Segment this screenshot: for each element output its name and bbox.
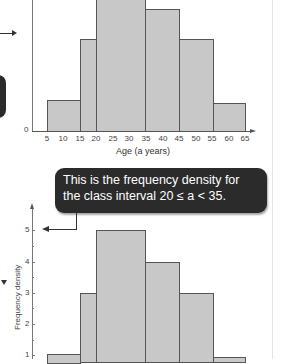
callout-line-2: the class interval 20 ≤ a < 35. bbox=[63, 188, 259, 204]
zero-label: 0 bbox=[24, 125, 28, 134]
arrowhead-icon bbox=[1, 280, 7, 285]
arrowhead-icon bbox=[12, 30, 17, 36]
x-tick: 50 bbox=[189, 134, 203, 143]
y-tick bbox=[32, 230, 35, 231]
x-tick: 5 bbox=[40, 134, 54, 143]
x-tick: 10 bbox=[56, 134, 70, 143]
y-tick-label: 3 bbox=[25, 288, 29, 297]
y-tick bbox=[32, 324, 35, 325]
x-tick: 40 bbox=[156, 134, 170, 143]
annotation-callout: This is the frequency density for the cl… bbox=[55, 168, 267, 213]
x-tick: 20 bbox=[89, 134, 103, 143]
x-tick: 65 bbox=[238, 134, 252, 143]
bar-20-35 bbox=[96, 230, 146, 363]
bar-55-65 bbox=[213, 103, 246, 132]
minor-tick bbox=[32, 246, 34, 247]
y-axis bbox=[32, 0, 33, 132]
x-tick: 25 bbox=[106, 134, 120, 143]
bar-45-55 bbox=[179, 293, 214, 363]
bar-35-45 bbox=[145, 9, 180, 132]
bar-5-15 bbox=[47, 354, 81, 364]
y-tick-label: 5 bbox=[25, 225, 29, 234]
leader-line-vertical bbox=[76, 213, 77, 230]
y-tick bbox=[32, 355, 35, 356]
minor-tick bbox=[32, 308, 34, 309]
page-divider bbox=[272, 0, 273, 359]
x-axis-title: Age (a years) bbox=[116, 146, 170, 156]
callout-line-1: This is the frequency density for bbox=[63, 172, 259, 188]
y-axis-title: Frequency density bbox=[13, 265, 22, 330]
y-axis-arrow-icon bbox=[30, 203, 34, 209]
minor-tick bbox=[32, 277, 34, 278]
x-tick: 30 bbox=[122, 134, 136, 143]
bar-15-20 bbox=[80, 293, 97, 363]
bar-55-65 bbox=[213, 357, 246, 363]
bar-15-20 bbox=[80, 39, 97, 132]
y-tick bbox=[32, 262, 35, 263]
x-tick: 45 bbox=[172, 134, 186, 143]
leader-line-horizontal bbox=[48, 229, 77, 230]
x-axis-arrow-icon bbox=[250, 129, 256, 133]
x-tick: 35 bbox=[139, 134, 153, 143]
bar-5-15 bbox=[47, 100, 81, 132]
y-tick-label: 1 bbox=[25, 350, 29, 359]
x-tick: 15 bbox=[73, 134, 87, 143]
minor-tick bbox=[32, 340, 34, 341]
y-tick-label: 4 bbox=[25, 257, 29, 266]
x-tick: 60 bbox=[222, 134, 236, 143]
leader-arrowhead-icon bbox=[42, 226, 49, 232]
y-tick-label: 2 bbox=[25, 319, 29, 328]
x-tick: 55 bbox=[205, 134, 219, 143]
bar-45-55 bbox=[179, 39, 214, 132]
bar-35-45 bbox=[145, 262, 180, 363]
bar-20-35 bbox=[96, 0, 146, 132]
cropped-callout bbox=[0, 75, 6, 118]
y-tick bbox=[32, 293, 35, 294]
